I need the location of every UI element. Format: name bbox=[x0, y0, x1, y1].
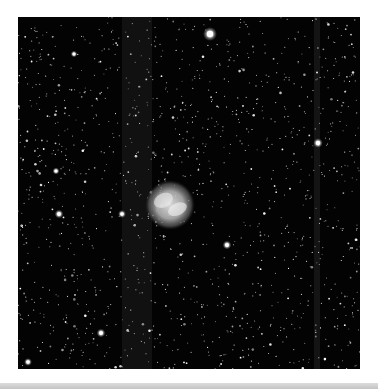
planetary-nebula bbox=[145, 180, 195, 230]
star-field bbox=[18, 17, 360, 369]
astronomical-image bbox=[18, 17, 360, 369]
bottom-gray-strip bbox=[0, 383, 378, 389]
